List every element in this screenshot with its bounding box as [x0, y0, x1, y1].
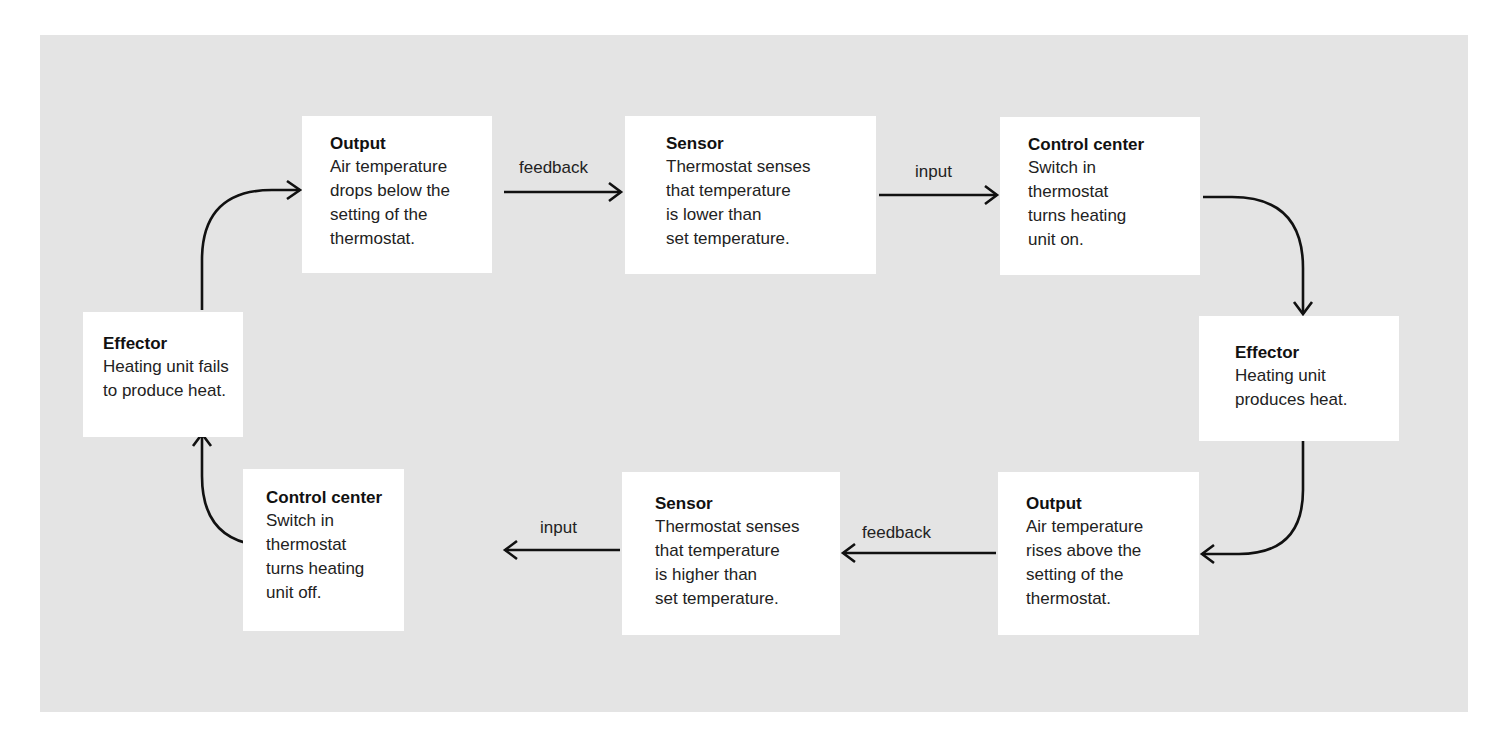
arrow-control-top-to-effector-right: [1203, 197, 1303, 314]
node-title: Sensor: [655, 492, 840, 515]
node-output-top: Output Air temperature drops below the s…: [302, 116, 492, 273]
node-description: Switch in thermostat turns heating unit …: [266, 509, 404, 605]
node-effector-left: Effector Heating unit fails to produce h…: [83, 312, 243, 437]
node-description: Air temperature rises above the setting …: [1026, 515, 1199, 611]
node-description: Air temperature drops below the setting …: [330, 155, 492, 251]
node-description: Switch in thermostat turns heating unit …: [1028, 156, 1200, 252]
node-title: Control center: [266, 486, 404, 509]
node-title: Output: [330, 132, 492, 155]
node-effector-right: Effector Heating unit produces heat.: [1199, 316, 1399, 441]
node-title: Effector: [1235, 341, 1399, 364]
arrow-effector-left-to-output-top: [202, 190, 300, 310]
node-description: Heating unit fails to produce heat.: [103, 355, 243, 403]
label-input-bottom: input: [540, 518, 577, 538]
node-title: Effector: [103, 332, 243, 355]
label-feedback-bottom: feedback: [862, 523, 931, 543]
label-feedback-top: feedback: [519, 158, 588, 178]
node-title: Sensor: [666, 132, 876, 155]
node-description: Heating unit produces heat.: [1235, 364, 1399, 412]
node-title: Control center: [1028, 133, 1200, 156]
node-sensor-bottom: Sensor Thermostat senses that temperatur…: [622, 472, 840, 635]
node-title: Output: [1026, 492, 1199, 515]
label-input-top: input: [915, 162, 952, 182]
node-description: Thermostat senses that temperature is lo…: [666, 155, 876, 251]
node-description: Thermostat senses that temperature is hi…: [655, 515, 840, 611]
node-output-bottom: Output Air temperature rises above the s…: [998, 472, 1199, 635]
arrow-effector-right-to-output-bottom: [1202, 440, 1303, 554]
node-control-bottom: Control center Switch in thermostat turn…: [243, 469, 404, 631]
node-sensor-top: Sensor Thermostat senses that temperatur…: [625, 116, 876, 274]
node-control-top: Control center Switch in thermostat turn…: [1000, 117, 1200, 275]
